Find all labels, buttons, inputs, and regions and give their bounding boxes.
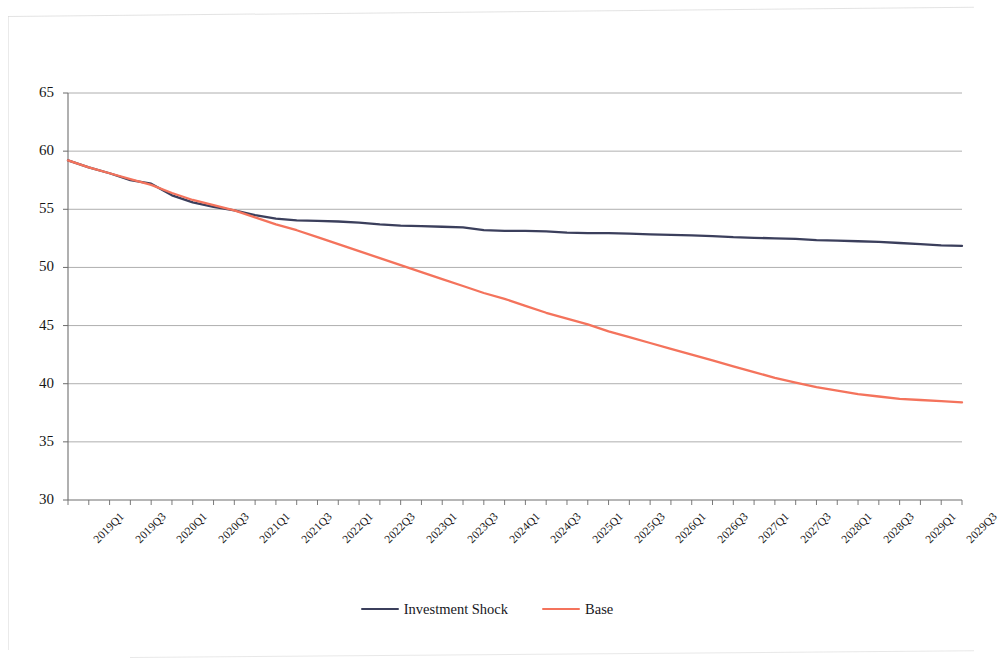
y-tick-label: 30 xyxy=(20,492,54,507)
series-line-base xyxy=(68,160,962,402)
legend-item-investment-shock[interactable]: Investment Shock xyxy=(361,602,508,617)
legend-label: Base xyxy=(585,602,613,617)
y-tick-label: 45 xyxy=(20,318,54,333)
legend-item-base[interactable]: Base xyxy=(542,602,613,617)
y-axis-ticks xyxy=(63,93,68,500)
y-tick-label: 35 xyxy=(20,434,54,449)
y-tick-label: 60 xyxy=(20,143,54,158)
legend-label: Investment Shock xyxy=(404,602,508,617)
y-tick-label: 55 xyxy=(20,201,54,216)
y-tick-label: 50 xyxy=(20,259,54,274)
data-series xyxy=(68,160,962,402)
legend-swatch-icon xyxy=(542,608,580,611)
chart-legend: Investment ShockBase xyxy=(0,596,974,622)
y-tick-label: 40 xyxy=(20,376,54,391)
y-tick-label: 65 xyxy=(20,85,54,100)
legend-swatch-icon xyxy=(361,608,399,611)
x-axis-ticks xyxy=(68,500,962,505)
